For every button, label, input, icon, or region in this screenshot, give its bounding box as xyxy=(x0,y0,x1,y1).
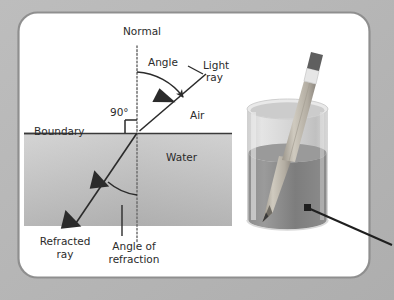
label-normal: Normal xyxy=(111,26,173,38)
water-region-shade xyxy=(24,134,232,226)
beaker-highlight-left xyxy=(251,112,256,220)
label-angle-of-refraction-line2: refraction xyxy=(93,254,175,266)
label-refracted-ray-line1: Refracted xyxy=(28,236,102,248)
beaker-rim-inner xyxy=(251,102,325,118)
label-light-ray-line2: ray xyxy=(206,72,223,84)
label-right-angle: 90° xyxy=(110,107,129,119)
label-air: Air xyxy=(190,110,204,122)
figure-canvas: Normal Angle Light ray Air Water Boundar… xyxy=(0,0,394,300)
label-boundary: Boundary xyxy=(34,126,85,138)
label-angle: Angle xyxy=(148,57,178,69)
label-angle-of-refraction-line1: Angle of xyxy=(93,241,175,253)
label-refracted-ray-line2: ray xyxy=(28,249,102,261)
label-water: Water xyxy=(166,152,197,164)
beaker-highlight-right xyxy=(320,112,324,220)
label-light-ray-line1: Light xyxy=(203,60,229,72)
